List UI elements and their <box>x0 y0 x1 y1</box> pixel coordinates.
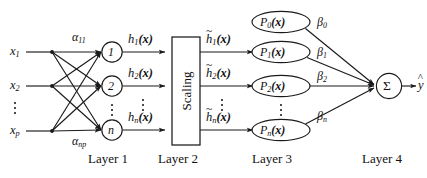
layer2-output-label-h2-tilde: ~h2(x) <box>206 67 231 82</box>
layer3-to-sigma-edges <box>306 29 375 125</box>
layer3-node-label-P0: P0(x) <box>260 16 285 30</box>
input-vertical-ellipsis <box>14 99 16 117</box>
layer1-node-label-2: 2 <box>108 80 114 92</box>
output-label-y-hat: ^y <box>418 79 424 92</box>
layer1-output-label-hn: hn(x) <box>128 111 153 126</box>
layer1-connection-edges <box>52 52 101 131</box>
caption-layer-3: Layer 3 <box>252 152 292 165</box>
network-diagram-figure: x1 x2 xp α11 αnp 1 2 n h1(x) h2(x) hn(x) <box>0 0 427 178</box>
layer1-node-label-n: n <box>108 124 114 136</box>
layer1-output-label-h2: h2(x) <box>128 67 153 82</box>
weight-label-beta-n: βn <box>317 110 327 124</box>
layer2-output-label-hn-tilde: ~hn(x) <box>206 111 231 126</box>
layer3-node-ellipses <box>252 11 310 140</box>
layer1-output-vertical-ellipsis <box>142 96 144 114</box>
layer3-node-label-Pn: Pn(x) <box>260 124 285 138</box>
input-stub-lines <box>26 52 52 131</box>
layer1-output-label-h1: h1(x) <box>128 33 153 48</box>
layer3-node-label-P1: P1(x) <box>260 46 285 60</box>
weight-label-alpha-np: αnp <box>72 135 86 149</box>
layer2-output-vertical-ellipsis <box>221 96 223 114</box>
input-junction-dots <box>50 50 54 133</box>
layer1-node-label-1: 1 <box>108 46 114 58</box>
caption-layer-4: Layer 4 <box>362 152 402 165</box>
scaling-box-label: Scaling <box>180 72 193 111</box>
weight-label-beta-2: β2 <box>317 70 327 84</box>
layer2-output-label-h1-tilde: ~h1(x) <box>206 33 231 48</box>
caption-layer-1: Layer 1 <box>88 152 128 165</box>
input-label-x1: x1 <box>10 45 20 60</box>
layer1-node-vertical-ellipsis <box>111 101 113 119</box>
layer3-node-vertical-ellipsis <box>280 101 282 119</box>
sigma-symbol-label: Σ <box>383 79 391 93</box>
layer3-node-label-P2: P2(x) <box>260 80 285 94</box>
weight-label-alpha-11: α11 <box>72 31 86 45</box>
weight-label-beta-0: β0 <box>317 16 327 30</box>
caption-layer-2: Layer 2 <box>158 152 198 165</box>
input-label-x2: x2 <box>10 79 20 94</box>
input-label-xp: xp <box>10 124 20 139</box>
weight-label-beta-1: β1 <box>317 46 327 60</box>
